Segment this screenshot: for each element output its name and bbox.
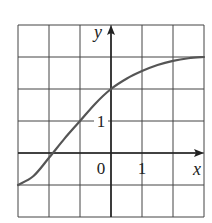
y-axis-label: y <box>92 22 102 42</box>
y-tick-label-1: 1 <box>97 112 106 131</box>
x-tick-label-1: 1 <box>138 159 147 178</box>
x-axis-label: x <box>192 159 201 179</box>
origin-label: 0 <box>97 159 106 178</box>
graph: 1 0 1 x y <box>0 0 212 223</box>
